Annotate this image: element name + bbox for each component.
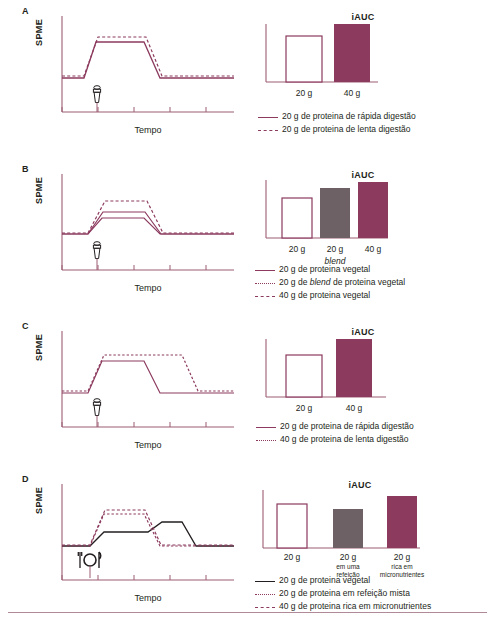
bar-20g-blend <box>320 188 350 238</box>
panel-b: B SPME Tempo iAUC <box>0 158 495 313</box>
bar-tick-40g: 40 g <box>346 403 363 413</box>
panel-a: A SPME Tempo iAUC <box>0 0 495 155</box>
bar-tick-3: 20 g <box>394 552 411 562</box>
line-plot-svg-b <box>36 170 236 282</box>
panel-letter-b: B <box>22 164 29 174</box>
shaker-cup-icon <box>93 86 100 112</box>
x-axis-label-b: Tempo <box>62 283 234 293</box>
line-plot-svg-d <box>36 480 236 592</box>
bar-plot-svg-c: 20 g 40 g <box>258 327 418 417</box>
bar-chart-title-c: iAUC <box>258 327 468 337</box>
bar-tick-20g: 20 g <box>296 403 313 413</box>
legend-label: 20 g de proteina de rápida digestão <box>282 110 416 123</box>
bar-3 <box>387 496 417 548</box>
legend-key-solid-icon <box>258 113 278 121</box>
legend-item: 20 g de blend de proteina vegetal <box>255 276 405 289</box>
bottom-divider <box>8 612 487 613</box>
x-axis-label-a: Tempo <box>62 125 234 135</box>
panel-letter-a: A <box>22 6 29 16</box>
legend-c: 20 g de proteina de rápida digestão 40 g… <box>256 420 414 446</box>
legend-item: 20 g de proteina vegetal <box>255 574 431 587</box>
legend-item: 20 g de proteina de lenta digestão <box>258 123 416 136</box>
bar-plot-svg-a: 20 g 40 g <box>258 12 408 100</box>
bar-40g <box>358 182 388 238</box>
legend-b: 20 g de proteina vegetal 20 g de blend d… <box>255 263 405 303</box>
line-chart-d: SPME Tempo <box>36 480 236 605</box>
legend-label: 20 g de proteina em refeição mista <box>279 587 410 600</box>
bar-plot-svg-d: 20 g 20 g 20 g em uma refeição rica em m… <box>255 480 440 585</box>
panel-d: D SPME Tempo iAUC <box>0 468 495 623</box>
legend-key-dashed-icon <box>255 603 275 611</box>
bar-tick-20g: 20 g <box>296 88 313 98</box>
bar-tick-3: 40 g <box>365 244 382 254</box>
legend-a: 20 g de proteina de rápida digestão 20 g… <box>258 110 416 136</box>
legend-key-dotted-icon <box>255 590 275 598</box>
y-axis-label-b: SPME <box>34 177 44 204</box>
panel-letter-c: C <box>22 321 29 331</box>
legend-key-dotted-icon <box>256 436 276 444</box>
legend-label: 20 g de proteina de lenta digestão <box>282 123 411 136</box>
x-axis-label-c: Tempo <box>62 440 234 450</box>
bar-20g <box>282 198 312 238</box>
legend-item: 40 g de proteina de lenta digestão <box>256 433 414 446</box>
bar-tick-2: 20 g <box>340 552 357 562</box>
legend-item: 40 g de proteina vegetal <box>255 289 405 302</box>
line-chart-a: SPME Tempo <box>36 12 236 137</box>
bar-tick-40g: 40 g <box>344 88 361 98</box>
line-chart-b: SPME Tempo <box>36 170 236 295</box>
bar-chart-a: iAUC 20 g 40 g <box>258 12 468 122</box>
y-axis-label-a: SPME <box>34 19 44 46</box>
legend-item: 20 g de proteina vegetal <box>255 263 405 276</box>
bar-plot-svg-b: 20 g 20 g 40 g blend <box>258 170 418 270</box>
bar-40g <box>334 24 370 82</box>
legend-key-solid-icon <box>255 266 275 274</box>
legend-item: 20 g de proteina de rápida digestão <box>256 420 414 433</box>
legend-item: 20 g de proteina em refeição mista <box>255 587 431 600</box>
legend-label: 40 g de proteina vegetal <box>279 289 370 302</box>
bar-tick-1: 20 g <box>284 552 301 562</box>
y-axis-label-c: SPME <box>34 334 44 361</box>
legend-d: 20 g de proteina vegetal 20 g de protein… <box>255 574 431 614</box>
legend-label: 20 g de proteina vegetal <box>279 574 370 587</box>
bar-chart-title-a: iAUC <box>258 12 468 22</box>
bar-1 <box>277 504 307 548</box>
legend-key-solid-icon <box>255 577 275 585</box>
bar-20g <box>286 36 322 82</box>
legend-label: 20 g de blend de proteina vegetal <box>279 276 405 289</box>
bar-chart-title-b: iAUC <box>258 170 468 180</box>
bar-chart-title-d: iAUC <box>255 480 465 490</box>
fork-plate-knife-icon <box>78 552 101 578</box>
legend-key-dashed-icon <box>255 292 275 300</box>
bar-sub-2a: em uma <box>336 563 360 570</box>
line-chart-c: SPME Tempo <box>36 327 236 452</box>
panel-c: C SPME Tempo iAUC <box>0 315 495 470</box>
legend-key-dashed-icon <box>258 126 278 134</box>
y-axis-label-d: SPME <box>34 487 44 514</box>
shaker-cup-icon <box>93 399 100 427</box>
bar-20g <box>286 355 322 397</box>
line-plot-svg-a <box>36 12 236 124</box>
panel-letter-d: D <box>22 474 29 484</box>
legend-label: 20 g de proteina de rápida digestão <box>280 420 414 433</box>
bar-40g <box>336 339 372 397</box>
x-axis-label-d: Tempo <box>62 593 234 603</box>
legend-item: 20 g de proteina de rápida digestão <box>258 110 416 123</box>
legend-label: 40 g de proteina de lenta digestão <box>280 433 409 446</box>
bar-tick-2: 20 g <box>327 244 344 254</box>
legend-key-dotted-icon <box>255 279 275 287</box>
shaker-cup-icon <box>93 242 100 270</box>
bar-2 <box>333 509 363 548</box>
line-plot-svg-c <box>36 327 236 439</box>
legend-key-solid-icon <box>256 423 276 431</box>
bar-tick-1: 20 g <box>289 244 306 254</box>
legend-label: 20 g de proteina vegetal <box>279 263 370 276</box>
bar-sub-3a: rica em <box>391 563 412 570</box>
